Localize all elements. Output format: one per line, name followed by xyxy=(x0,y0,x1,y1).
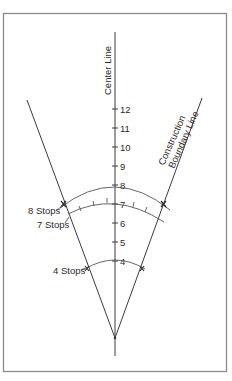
tick-8: 8 xyxy=(120,180,125,191)
tick-6: 6 xyxy=(120,218,125,229)
arc-8-label: 8 Stops xyxy=(28,205,60,216)
center-line-label: Center Line xyxy=(102,46,113,95)
center-scale: 12 11 10 9 8 7 6 5 4 xyxy=(112,104,131,267)
tick-7: 7 xyxy=(120,199,125,210)
tick-12: 12 xyxy=(120,104,131,115)
stops-diagram: Center Line Construction Boundary Line 1… xyxy=(0,0,232,381)
arc-7-stops xyxy=(68,204,164,222)
tick-9: 9 xyxy=(120,161,125,172)
apex-point xyxy=(114,337,117,340)
tick-11: 11 xyxy=(120,123,130,134)
arc-7-label: 7 Stops xyxy=(37,219,69,230)
tick-10: 10 xyxy=(120,142,131,153)
tick-5: 5 xyxy=(120,237,125,248)
arc-4-label: 4 Stops xyxy=(53,265,85,276)
arc-7-divisions xyxy=(79,198,147,212)
